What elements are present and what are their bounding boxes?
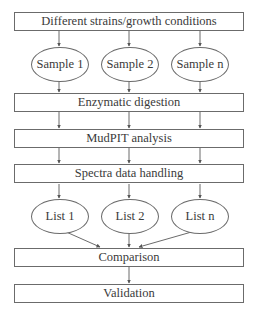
list-1-label: List 1 xyxy=(46,209,75,224)
step-validation-box: Validation xyxy=(14,284,244,303)
step-comparison-box: Comparison xyxy=(14,248,244,267)
step-spectra-label: Spectra data handling xyxy=(75,165,183,182)
sample-2-label: Sample 2 xyxy=(107,57,154,72)
step-conditions-label: Different strains/growth conditions xyxy=(41,13,216,30)
sample-1-node: Sample 1 xyxy=(31,47,89,82)
list-n-node: List n xyxy=(171,199,229,234)
arrow-list-n-to-comparison xyxy=(139,231,195,247)
sample-2-node: Sample 2 xyxy=(101,47,159,82)
step-comparison-label: Comparison xyxy=(98,249,159,266)
step-mudpit-box: MudPIT analysis xyxy=(14,129,244,148)
list-2-node: List 2 xyxy=(101,199,159,234)
sample-n-node: Sample n xyxy=(171,47,229,82)
arrow-list-1-to-comparison xyxy=(64,231,100,247)
step-conditions-box: Different strains/growth conditions xyxy=(14,12,244,31)
sample-1-label: Sample 1 xyxy=(37,57,84,72)
step-spectra-box: Spectra data handling xyxy=(14,164,244,183)
step-validation-label: Validation xyxy=(103,285,154,302)
sample-n-label: Sample n xyxy=(177,57,224,72)
list-n-label: List n xyxy=(186,209,215,224)
step-digestion-label: Enzymatic digestion xyxy=(78,94,180,111)
step-digestion-box: Enzymatic digestion xyxy=(14,93,244,112)
step-mudpit-label: MudPIT analysis xyxy=(86,130,172,147)
list-1-node: List 1 xyxy=(31,199,89,234)
list-2-label: List 2 xyxy=(116,209,145,224)
